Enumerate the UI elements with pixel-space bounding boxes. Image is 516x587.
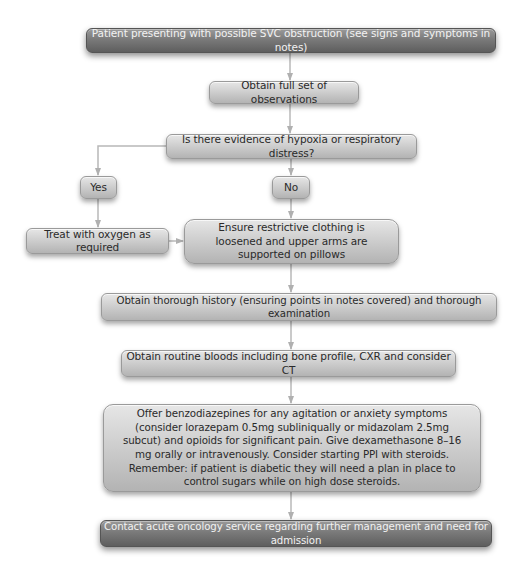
medication-node: Offer benzodiazepines for any agitation … xyxy=(103,404,481,492)
oxygen-node: Treat with oxygen as required xyxy=(26,228,169,254)
start-node-label: Patient presenting with possible SVC obs… xyxy=(87,27,495,54)
observations-node-label: Obtain full set of observations xyxy=(210,79,358,106)
observations-node: Obtain full set of observations xyxy=(209,81,359,104)
yes-node: Yes xyxy=(80,176,117,199)
clothing-node: Ensure restrictive clothing is loosened … xyxy=(184,219,399,264)
history-node: Obtain thorough history (ensuring points… xyxy=(101,293,497,321)
contact-label: Contact acute oncology service regarding… xyxy=(101,520,491,547)
no-label: No xyxy=(284,181,298,195)
oxygen-label: Treat with oxygen as required xyxy=(27,228,168,255)
bloods-node: Obtain routine bloods including bone pro… xyxy=(121,350,456,377)
contact-node: Contact acute oncology service regarding… xyxy=(100,520,492,547)
history-label: Obtain thorough history (ensuring points… xyxy=(102,294,496,321)
start-node: Patient presenting with possible SVC obs… xyxy=(86,28,496,53)
clothing-label: Ensure restrictive clothing is loosened … xyxy=(203,221,380,262)
medication-label: Offer benzodiazepines for any agitation … xyxy=(116,407,468,489)
decision-hypoxia-node: Is there evidence of hypoxia or respirat… xyxy=(166,134,417,159)
decision-hypoxia-label: Is there evidence of hypoxia or respirat… xyxy=(167,133,416,160)
edge-question-yes xyxy=(98,146,166,175)
bloods-label: Obtain routine bloods including bone pro… xyxy=(122,350,455,377)
no-node: No xyxy=(272,176,310,199)
yes-label: Yes xyxy=(90,181,107,195)
